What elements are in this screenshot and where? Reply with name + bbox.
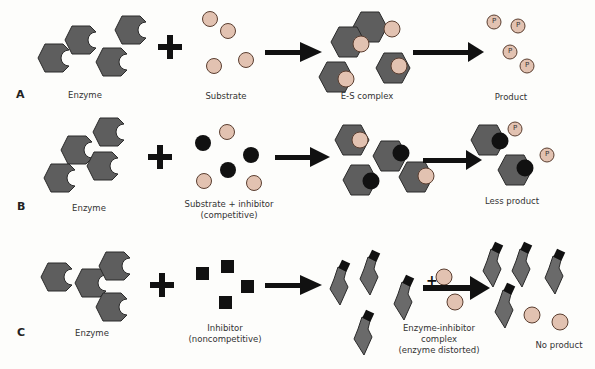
inhibitor-group-c xyxy=(196,260,254,309)
enzyme-group-b xyxy=(44,118,124,192)
arrow-icon xyxy=(275,147,330,167)
label-noncompetitive: (noncompetitive) xyxy=(188,334,261,345)
plus-icon xyxy=(158,35,182,59)
label-less-product: Less product xyxy=(485,196,539,207)
distorted-complex-group xyxy=(330,250,414,355)
label-enzyme-c: Enzyme xyxy=(75,328,109,339)
product-p-label: P xyxy=(508,46,512,57)
product-p-label: P xyxy=(545,149,549,160)
label-complex: complex xyxy=(421,334,457,345)
label-enzyme-distorted: (enzyme distorted) xyxy=(398,345,479,356)
label-product: Product xyxy=(495,92,527,103)
ei-complex-group-b xyxy=(335,125,434,195)
product-p-label: P xyxy=(492,16,496,27)
row-letter-a: A xyxy=(16,88,25,101)
diagram-canvas: + xyxy=(0,0,595,369)
no-product-group xyxy=(483,242,568,330)
label-enzyme-inhibitor: Enzyme-inhibitor xyxy=(403,323,475,334)
row-b xyxy=(44,118,554,195)
plus-icon xyxy=(150,273,174,297)
label-no-product: No product xyxy=(536,340,583,351)
row-a xyxy=(38,12,534,93)
label-enzyme-a: Enzyme xyxy=(68,90,102,101)
arrow-icon xyxy=(423,150,482,170)
arrow-icon xyxy=(265,275,322,295)
label-substrate-a: Substrate xyxy=(205,91,246,102)
substrate-inhibitor-group xyxy=(195,125,262,191)
enzyme-group-a xyxy=(38,16,146,76)
row-letter-b: B xyxy=(17,200,25,213)
label-inhibitor: Inhibitor xyxy=(207,323,242,334)
row-c: + xyxy=(41,242,568,355)
enzyme-group-c xyxy=(41,252,130,321)
product-p-label: P xyxy=(525,60,529,71)
plus-icon xyxy=(148,145,172,169)
arrow-icon xyxy=(265,42,322,62)
label-enzyme-b: Enzyme xyxy=(72,203,106,214)
label-competitive: (competitive) xyxy=(200,210,257,221)
label-substrate-inhibitor: Substrate + inhibitor xyxy=(184,199,273,210)
arrow-icon xyxy=(413,42,484,62)
substrate-group-a xyxy=(203,12,254,74)
es-complex-group xyxy=(319,12,410,92)
row-letter-c: C xyxy=(17,326,25,339)
product-p-label: P xyxy=(513,123,517,134)
label-es-complex: E-S complex xyxy=(341,91,394,102)
product-p-label: P xyxy=(516,20,520,31)
